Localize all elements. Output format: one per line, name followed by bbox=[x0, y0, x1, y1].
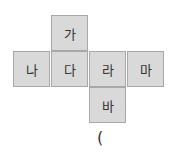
net-cell-ba: 바 bbox=[89, 87, 126, 123]
net-cell-ga: 가 bbox=[51, 15, 88, 51]
answer-paren: ( bbox=[97, 128, 103, 147]
net-cell-da: 다 bbox=[51, 51, 88, 87]
net-cell-ma: 마 bbox=[127, 51, 164, 87]
net-cell-ra: 라 bbox=[89, 51, 126, 87]
net-cell-na: 나 bbox=[13, 51, 50, 87]
